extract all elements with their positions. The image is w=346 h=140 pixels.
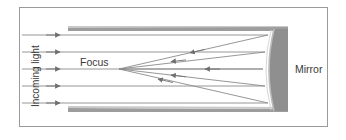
reflected-ray-4 — [119, 69, 265, 86]
concave-mirror — [266, 29, 288, 111]
diagram-canvas: Incoming light Focus Mirror — [0, 0, 346, 140]
reflected-ray-2 — [119, 52, 265, 69]
telescope-mirror-diagram: Incoming light Focus Mirror — [0, 0, 346, 140]
incoming-light-label: Incoming light — [30, 45, 41, 107]
reflected-light-rays — [119, 35, 268, 103]
focus-label: Focus — [80, 56, 109, 68]
incoming-ray-arrowheads — [46, 35, 60, 103]
reflected-arrow-4 — [171, 75, 186, 77]
mirror-label: Mirror — [295, 63, 323, 75]
